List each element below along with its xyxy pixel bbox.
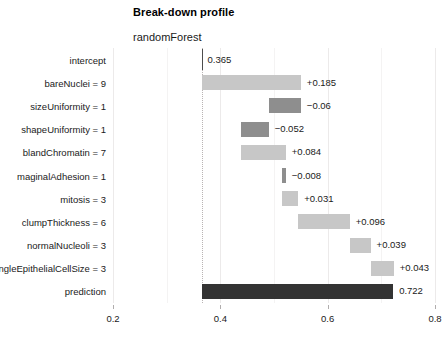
bar-7 [298,214,350,229]
value-label-7: +0.096 [356,217,385,227]
value-label-4: +0.084 [292,147,321,157]
x-tick-label-0.6: 0.6 [321,313,334,324]
row-label-7: clumpThickness = 6 [22,217,106,228]
chart-subtitle: randomForest [133,31,201,43]
intercept-marker [202,49,203,70]
bar-4 [241,145,286,160]
row-label-1: bareNuclei = 9 [44,78,106,89]
bar-2 [269,98,301,113]
bar-6 [282,191,299,206]
row-label-3: shapeUniformity = 1 [21,124,106,135]
row-label-0: intercept [70,55,106,66]
row-label-10: prediction [65,286,106,297]
x-tick-mark-0.2 [113,305,114,309]
x-tick-mark-0.8 [435,305,436,309]
row-label-5: maginalAdhesion = 1 [17,171,106,182]
x-tick-mark-0.6 [328,305,329,309]
bar-3 [241,122,269,137]
gridline-minor [167,48,168,303]
value-label-2: −0.06 [307,101,331,111]
value-label-3: −0.052 [275,124,304,134]
bar-9 [371,261,394,276]
bar-5 [282,168,286,183]
row-label-8: normalNucleoli = 3 [27,240,106,251]
value-label-8: +0.039 [377,240,406,250]
bar-8 [350,238,371,253]
chart-title: Break-down profile [133,6,234,18]
row-label-2: sizeUniformity = 1 [30,101,106,112]
row-label-9: singleEpithelialCellSize = 3 [0,263,106,274]
x-tick-label-0.8: 0.8 [428,313,441,324]
x-tick-label-0.4: 0.4 [214,313,227,324]
value-label-5: −0.008 [292,171,321,181]
value-label-1: +0.185 [307,78,336,88]
gridline-x-0.2 [113,48,114,303]
bar-1 [202,75,301,90]
value-label-10: 0.722 [399,286,423,296]
row-label-4: blandChromatin = 7 [23,147,106,158]
value-label-0: 0.365 [208,55,232,65]
x-tick-mark-0.4 [220,305,221,309]
value-label-6: +0.031 [304,194,333,204]
bar-10 [202,284,394,299]
x-tick-label-0.2: 0.2 [106,313,119,324]
gridline-x-0.8 [435,48,436,303]
plot-panel [113,48,435,303]
value-label-9: +0.043 [400,263,429,273]
row-label-6: mitosis = 3 [60,194,106,205]
